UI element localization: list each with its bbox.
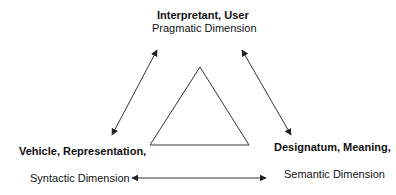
node-top-title: Interpretant, User xyxy=(157,9,249,22)
node-left-title: Vehicle, Representation, xyxy=(19,145,146,158)
node-right-subtitle: Semantic Dimension xyxy=(284,168,385,181)
node-right-title: Designatum, Meaning, xyxy=(274,141,391,154)
arrow-left-top xyxy=(112,50,157,135)
node-top-subtitle: Pragmatic Dimension xyxy=(152,22,257,35)
arrow-top-right xyxy=(242,50,291,135)
center-triangle xyxy=(150,67,249,145)
node-left-subtitle: Syntactic Dimension xyxy=(30,172,130,185)
